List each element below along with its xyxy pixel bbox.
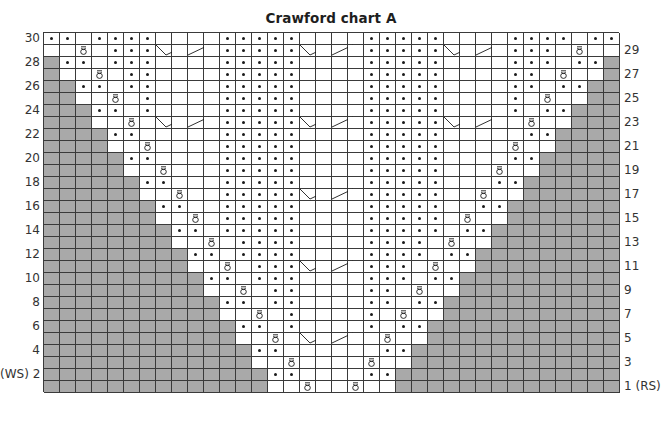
no-stitch-cell [92, 261, 108, 273]
knit-cell [220, 285, 236, 297]
purl-dot-icon [492, 201, 508, 213]
purl-dot-icon [252, 177, 268, 189]
knit-cell [348, 93, 364, 105]
purl-dot-icon [268, 69, 284, 81]
twisted-stitch-icon [396, 309, 412, 321]
no-stitch-cell [220, 369, 236, 381]
purl-dot-icon [140, 33, 156, 45]
purl-dot-icon [508, 105, 524, 117]
no-stitch-cell [92, 141, 108, 153]
no-stitch-cell [572, 369, 588, 381]
cable-cross-left-icon [332, 45, 348, 57]
knit-cell [204, 177, 220, 189]
knit-cell [428, 237, 444, 249]
purl-dot-icon [380, 213, 396, 225]
no-stitch-cell [44, 57, 60, 69]
knit-cell [316, 141, 332, 153]
purl-dot-icon [284, 369, 300, 381]
purl-dot-icon [364, 129, 380, 141]
no-stitch-cell [524, 249, 540, 261]
no-stitch-cell [428, 321, 444, 333]
purl-dot-icon [476, 225, 492, 237]
knit-cell [300, 273, 316, 285]
purl-dot-icon [364, 213, 380, 225]
no-stitch-cell [108, 321, 124, 333]
knit-cell [476, 237, 492, 249]
no-stitch-cell [588, 309, 604, 321]
no-stitch-cell [540, 201, 556, 213]
knit-cell [332, 153, 348, 165]
no-stitch-cell [108, 165, 124, 177]
purl-dot-icon [396, 141, 412, 153]
knit-cell [348, 153, 364, 165]
knit-cell [172, 129, 188, 141]
no-stitch-cell [508, 369, 524, 381]
cable-cross-left-icon [332, 333, 348, 345]
no-stitch-cell [540, 213, 556, 225]
knit-cell [332, 141, 348, 153]
knit-cell [188, 177, 204, 189]
knit-cell [332, 129, 348, 141]
knit-cell [60, 69, 76, 81]
no-stitch-cell [572, 225, 588, 237]
purl-dot-icon [284, 45, 300, 57]
purl-dot-icon [220, 33, 236, 45]
no-stitch-cell [140, 321, 156, 333]
knit-cell [348, 285, 364, 297]
purl-dot-icon [284, 285, 300, 297]
purl-dot-icon [428, 177, 444, 189]
purl-dot-icon [220, 177, 236, 189]
purl-dot-icon [220, 141, 236, 153]
purl-dot-icon [412, 45, 428, 57]
no-stitch-cell [92, 297, 108, 309]
no-stitch-cell [92, 357, 108, 369]
twisted-stitch-icon [188, 213, 204, 225]
knit-cell [316, 273, 332, 285]
no-stitch-cell [492, 261, 508, 273]
no-stitch-cell [588, 201, 604, 213]
row-label-rs: 3 [624, 356, 632, 368]
no-stitch-cell [508, 201, 524, 213]
no-stitch-cell [540, 333, 556, 345]
knit-cell [476, 93, 492, 105]
no-stitch-cell [460, 333, 476, 345]
purl-dot-icon [236, 225, 252, 237]
no-stitch-cell [604, 297, 620, 309]
no-stitch-cell [76, 177, 92, 189]
no-stitch-cell [460, 381, 476, 393]
purl-dot-icon [140, 81, 156, 93]
knit-cell [220, 249, 236, 261]
purl-dot-icon [284, 237, 300, 249]
purl-dot-icon [268, 129, 284, 141]
knit-cell [348, 357, 364, 369]
purl-dot-icon [380, 81, 396, 93]
no-stitch-cell [60, 369, 76, 381]
knit-cell [300, 141, 316, 153]
purl-dot-icon [92, 105, 108, 117]
no-stitch-cell [412, 357, 428, 369]
purl-dot-icon [444, 249, 460, 261]
cable-cross-right-icon [156, 117, 172, 129]
no-stitch-cell [44, 261, 60, 273]
no-stitch-cell [140, 213, 156, 225]
knit-cell [316, 33, 332, 45]
row-label-ws: 18 [0, 176, 40, 188]
purl-dot-icon [252, 93, 268, 105]
purl-dot-icon [396, 165, 412, 177]
no-stitch-cell [92, 201, 108, 213]
knit-cell [300, 57, 316, 69]
no-stitch-cell [156, 261, 172, 273]
no-stitch-cell [588, 153, 604, 165]
no-stitch-cell [444, 357, 460, 369]
purl-dot-icon [124, 81, 140, 93]
purl-dot-icon [396, 225, 412, 237]
no-stitch-cell [60, 201, 76, 213]
no-stitch-cell [92, 153, 108, 165]
knit-cell [460, 57, 476, 69]
purl-dot-icon [428, 117, 444, 129]
purl-dot-icon [396, 345, 412, 357]
twisted-stitch-icon [540, 93, 556, 105]
purl-dot-icon [44, 33, 60, 45]
no-stitch-cell [44, 81, 60, 93]
no-stitch-cell [556, 345, 572, 357]
